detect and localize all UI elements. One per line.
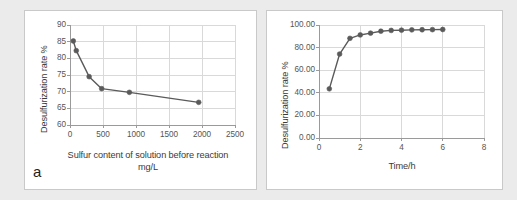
chart-b-data-point: [420, 27, 425, 32]
chart-b-y-tick-label: 100.00: [279, 20, 315, 29]
chart-b-y-tick-label: 20.00: [279, 110, 315, 119]
chart-b-data-point: [327, 86, 332, 91]
chart-panel-b: Desulfurization rate % Time/h 0.0020.004…: [266, 10, 503, 190]
chart-panel-a: Desulfurization rate % Sulfur content of…: [24, 10, 257, 190]
chart-b-x-axis-title: Time/h: [307, 161, 497, 172]
chart-a-y-tick-label: 90: [30, 20, 66, 29]
chart-a-data-point: [74, 48, 79, 53]
chart-b-y-tick-label: 40.00: [279, 88, 315, 97]
chart-b-series-line: [329, 30, 442, 89]
chart-a-y-tick-label: 75: [30, 70, 66, 79]
chart-b-data-point: [430, 27, 435, 32]
chart-a-data-point: [196, 100, 201, 105]
chart-a-x-tick-label: 2500: [215, 130, 255, 139]
chart-b-y-tick-label: 80.00: [279, 43, 315, 52]
chart-b-data-point: [389, 28, 394, 33]
chart-a-x-axis-title-line1: Sulfur content of solution before reacti…: [43, 150, 253, 161]
chart-b-y-tick-label: 60.00: [279, 65, 315, 74]
chart-a-y-tick-label: 85: [30, 37, 66, 46]
chart-a-data-point: [71, 39, 76, 44]
chart-a-data-point: [99, 86, 104, 91]
chart-a-data-point: [127, 90, 132, 95]
chart-b-data-point: [358, 33, 363, 38]
chart-b-data-point: [368, 31, 373, 36]
chart-b-x-tick-label: 2: [340, 143, 380, 152]
chart-b-data-point: [409, 27, 414, 32]
chart-b-x-tick-label: 8: [464, 143, 504, 152]
figure-canvas: Desulfurization rate % Sulfur content of…: [0, 0, 517, 200]
chart-a-y-tick-label: 70: [30, 87, 66, 96]
chart-a-y-tick-label: 65: [30, 103, 66, 112]
chart-b-x-tick-label: 6: [423, 143, 463, 152]
chart-b-data-point: [378, 29, 383, 34]
chart-b-y-tick-label: 0.00: [279, 133, 315, 142]
chart-a-data-point: [87, 74, 92, 79]
chart-b-x-tick-label: 4: [382, 143, 422, 152]
chart-b-data-point: [399, 28, 404, 33]
panel-letter-a: a: [33, 163, 41, 180]
chart-b-data-point: [348, 36, 353, 41]
chart-a-x-axis-title-line2: mg/L: [43, 162, 253, 173]
chart-b-data-point: [440, 27, 445, 32]
chart-b-x-tick-label: 0: [299, 143, 339, 152]
chart-a-y-tick-label: 80: [30, 53, 66, 62]
chart-a-y-tick-label: 60: [30, 120, 66, 129]
chart-b-data-point: [337, 52, 342, 57]
